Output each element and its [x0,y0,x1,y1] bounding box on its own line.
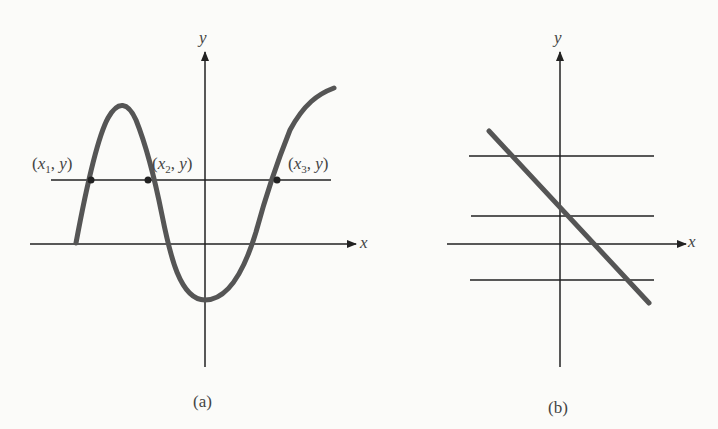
point-label-x3: (x3, y) [288,154,328,175]
point-label-x1-sub: 1 [45,163,51,175]
caption-a: (a) [193,392,212,412]
point-label-x3-sub: 3 [301,163,307,175]
point-label-x2-sub: 2 [165,163,171,175]
y-axis-label-a: y [199,28,207,48]
point-x1 [88,177,95,184]
x-axis-label-b: x [688,232,696,252]
point-label-x3-y: y [315,154,323,173]
x-axis-label-a: x [360,233,368,253]
point-x3 [274,177,281,184]
caption-b: (b) [548,398,568,418]
slant-line-b [489,131,649,303]
figure-graphics [0,0,718,429]
point-label-x1-y: y [59,154,67,173]
point-label-x2-y: y [179,154,187,173]
point-label-x2: (x2, y) [152,154,192,175]
figure: y x (x1, y) (x2, y) (x3, y) (a) y x (b) [0,0,718,429]
y-axis-label-b: y [554,28,562,48]
panel-b [447,52,686,367]
panel-a [30,52,356,367]
point-label-x1: (x1, y) [32,154,72,175]
point-x2 [145,177,152,184]
